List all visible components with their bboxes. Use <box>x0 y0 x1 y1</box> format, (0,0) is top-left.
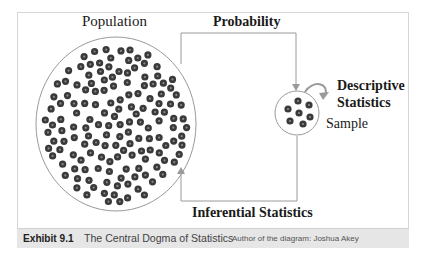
population-dot <box>162 142 169 149</box>
probability-label: Probability <box>213 14 280 30</box>
population-dot <box>98 154 105 161</box>
descriptive-arrowhead-icon <box>319 92 329 100</box>
population-dot <box>103 131 110 138</box>
population-dot <box>101 109 108 116</box>
sample-dot <box>284 105 291 112</box>
population-dot <box>156 134 163 141</box>
population-dot <box>153 164 160 171</box>
population-dot <box>170 138 177 145</box>
population-dot <box>137 119 144 126</box>
population-dot <box>117 121 124 128</box>
population-dot <box>135 186 142 193</box>
population-dot <box>107 99 114 106</box>
population-dot <box>101 87 108 94</box>
inferential-arrow-line <box>181 136 297 201</box>
population-circle-group <box>36 37 196 211</box>
population-dot <box>135 165 142 172</box>
population-dot <box>126 118 133 125</box>
population-dot <box>62 78 69 85</box>
sample-circle-group <box>275 91 319 135</box>
sample-label: Sample <box>326 116 368 132</box>
population-dot <box>120 147 127 154</box>
sample-dot <box>306 113 313 120</box>
population-dot <box>142 172 149 179</box>
population-dot <box>88 80 95 87</box>
population-dot <box>170 124 177 131</box>
population-dot <box>73 109 80 116</box>
population-dot <box>70 151 77 158</box>
population-dot <box>123 166 130 173</box>
population-dot <box>110 83 117 90</box>
population-dot <box>93 139 100 146</box>
population-dot <box>85 177 92 184</box>
population-dot <box>70 100 77 107</box>
population-dot <box>50 138 57 145</box>
population-dot <box>49 152 56 159</box>
population-dot <box>71 165 78 172</box>
population-dot <box>62 172 69 179</box>
population-dot <box>92 88 99 95</box>
population-dot <box>56 146 63 153</box>
population-dot <box>82 124 89 131</box>
population-dot <box>109 74 116 81</box>
population-dot <box>82 86 89 93</box>
sample-dot <box>299 120 306 127</box>
descriptive-statistics-label: Descriptive Statistics <box>337 77 405 111</box>
population-dot <box>155 100 162 107</box>
population-dot <box>50 93 57 100</box>
population-dot <box>114 182 121 189</box>
population-dot <box>145 124 152 131</box>
population-dot <box>160 80 167 87</box>
population-dot <box>140 105 147 112</box>
population-dot <box>171 159 178 166</box>
population-dot <box>161 109 168 116</box>
population-dot <box>70 123 77 130</box>
population-dot <box>74 175 81 182</box>
population-dot <box>178 142 185 149</box>
population-dot <box>180 115 187 122</box>
population-dot <box>105 122 112 129</box>
population-dot <box>178 102 185 109</box>
population-dot <box>91 48 98 55</box>
population-dot <box>141 60 148 67</box>
population-dot <box>42 116 49 123</box>
population-dot <box>81 53 88 60</box>
population-dot <box>167 100 174 107</box>
population-dot <box>142 156 149 163</box>
inferential-statistics-label: Inferential Statistics <box>192 205 313 221</box>
population-dot <box>183 124 190 131</box>
population-dot <box>117 96 124 103</box>
probability-arrowhead-icon <box>292 84 300 91</box>
population-dot <box>107 54 114 61</box>
population-dot <box>45 145 52 152</box>
population-dot <box>167 85 174 92</box>
probability-arrow-line <box>181 33 296 86</box>
population-dot <box>146 95 153 102</box>
population-dot <box>154 63 161 70</box>
sample-dot <box>295 109 302 116</box>
population-dot <box>141 73 148 80</box>
population-dot <box>169 76 176 83</box>
population-dot <box>141 191 148 198</box>
sample-dot <box>294 97 301 104</box>
population-dot <box>85 72 92 79</box>
population-dot <box>111 191 118 198</box>
population-dot <box>83 191 90 198</box>
population-dot <box>141 82 148 89</box>
population-dot <box>103 46 110 53</box>
population-dot <box>124 79 131 86</box>
population-dot <box>154 72 161 79</box>
population-dot <box>117 47 124 54</box>
population-dot <box>58 127 65 134</box>
population-dot <box>54 80 61 87</box>
population-dot <box>129 152 136 159</box>
population-dot <box>161 157 168 164</box>
population-dot <box>95 121 102 128</box>
population-dot <box>131 64 138 71</box>
population-dot <box>87 61 94 68</box>
population-dot <box>77 157 84 164</box>
population-dot <box>81 100 88 107</box>
population-dot <box>112 142 119 149</box>
population-dot <box>173 91 180 98</box>
population-dot <box>73 184 80 191</box>
